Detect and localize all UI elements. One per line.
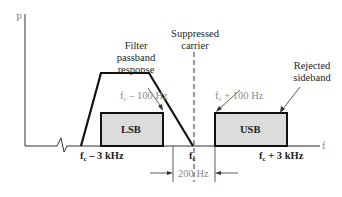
- f-axis-label: f: [322, 140, 326, 152]
- filter-passband-label: Filter passband response: [103, 40, 169, 76]
- suppressed-carrier-label: Suppressed carrier: [164, 28, 226, 52]
- arrow-right-icon: [167, 171, 173, 175]
- fc-label: fc: [189, 150, 196, 165]
- lsb-label: LSB: [121, 124, 141, 136]
- fc-minus-100hz-label: fc – 100 Hz: [120, 90, 168, 105]
- arrow-left-icon: [215, 171, 221, 175]
- rejected-sideband-label: Rejected sideband: [285, 60, 339, 84]
- usb-label: USB: [240, 124, 260, 136]
- pointer-arrow-icon: [158, 104, 163, 111]
- gap-200hz-label: 200 Hz: [178, 168, 209, 180]
- fc-minus-3khz-label: fc – 3 kHz: [80, 150, 124, 165]
- p-axis-label: P: [16, 12, 22, 24]
- fc-plus-100hz-label: fc + 100 Hz: [215, 90, 263, 105]
- fc-plus-3khz-label: fc + 3 kHz: [259, 150, 303, 165]
